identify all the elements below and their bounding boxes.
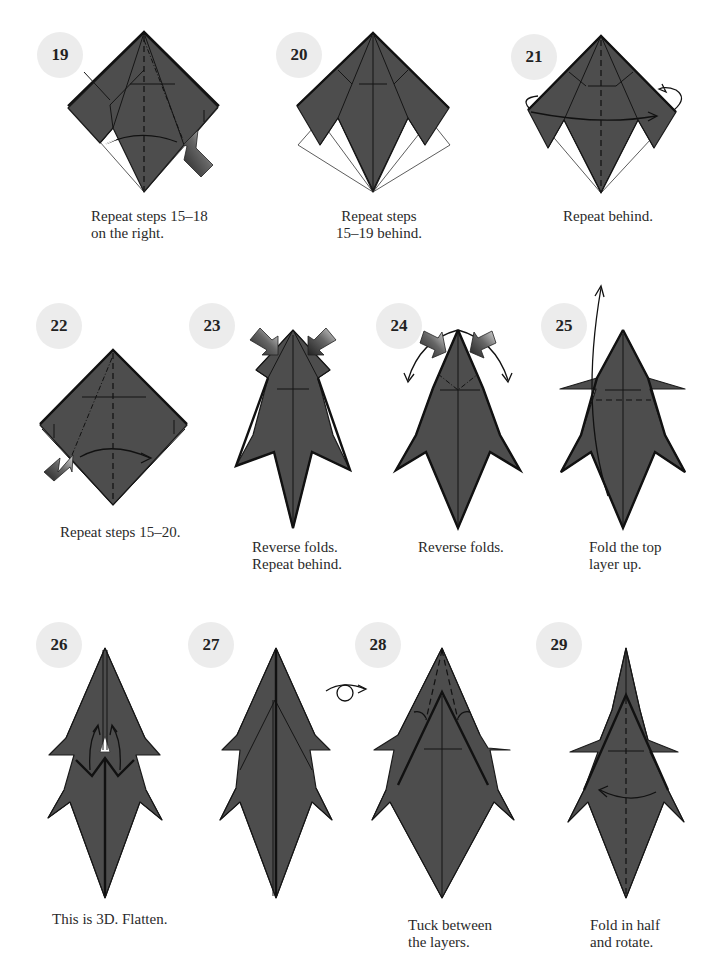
step-caption: Fold the toplayer up.: [589, 539, 662, 573]
square-base-kite-icon: [240, 0, 480, 210]
body-flattened-icon: [200, 640, 350, 900]
step-caption: Repeat steps 15–20.: [60, 524, 180, 541]
body-3d-flatten-icon: [30, 640, 180, 900]
step-caption: Reverse folds.: [418, 539, 504, 556]
body-reverse-fold-top-icon: [220, 300, 370, 540]
step-caption: Repeat steps15–19 behind.: [334, 208, 424, 242]
square-base-with-pushed-flap-right-icon: [0, 0, 240, 210]
step-caption: This is 3D. Flatten.: [52, 911, 167, 928]
step-caption: Fold in halfand rotate.: [590, 917, 660, 951]
body-fold-half-icon: [560, 640, 700, 900]
square-base-turn-over-icon: [476, 0, 716, 210]
body-fold-layer-up-icon: [545, 290, 705, 540]
turn-over-icon: [318, 680, 378, 710]
body-tuck-layers-icon: [390, 640, 520, 900]
step-caption: Repeat steps 15–18on the right.: [91, 208, 208, 242]
step-caption: Tuck betweenthe layers.: [408, 917, 492, 951]
step-caption: Reverse folds.Repeat behind.: [252, 539, 342, 573]
step-caption: Repeat behind.: [563, 208, 653, 225]
body-reverse-fold-points-icon: [380, 300, 530, 540]
